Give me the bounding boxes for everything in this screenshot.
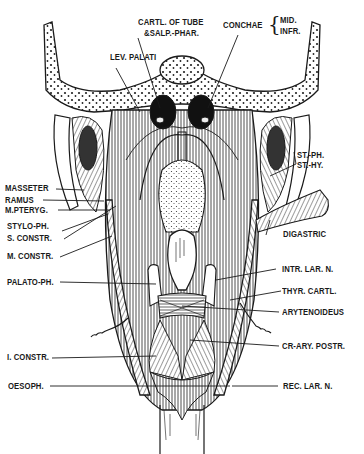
- label-thyr-cartl: THYR. CARTL.: [282, 287, 337, 296]
- label-ramus: RAMUS: [5, 196, 34, 205]
- label-st-hy: ST.-HY.: [297, 161, 323, 170]
- label-palato-ph: PALATO-PH.: [7, 278, 54, 287]
- label-m-constr: M. CONSTR.: [7, 252, 53, 261]
- label-intr-lar-n: INTR. LAR. N.: [282, 265, 333, 274]
- label-m-pteryg: M.PTERYG.: [5, 206, 48, 215]
- label-conchae: CONCHAE: [223, 21, 263, 30]
- label-conchae-mid: MID.: [280, 16, 297, 25]
- conchae-brace: {: [268, 14, 281, 34]
- label-arytenoideus: ARYTENOIDEUS: [282, 308, 344, 317]
- label-oesoph: OESOPH.: [8, 382, 44, 391]
- anatomical-diagram: CARTL. OF TUBE &SALP.-PHAR. LEV. PALATI …: [0, 0, 364, 454]
- label-cr-ary-postr: CR-ARY. POSTR.: [282, 342, 345, 351]
- label-masseter: MASSETER: [5, 184, 49, 193]
- label-salp-phar: &SALP.-PHAR.: [144, 29, 199, 38]
- label-i-constr: I. CONSTR.: [7, 353, 49, 362]
- label-cartl-of-tube: CARTL. OF TUBE: [138, 18, 203, 27]
- label-digastric: DIGASTRIC: [283, 230, 326, 239]
- label-s-constr: S. CONSTR.: [7, 234, 52, 243]
- label-stylo-ph: STYLO-PH.: [7, 222, 49, 231]
- label-st-ph: ST.-PH.: [297, 151, 324, 160]
- label-lev-palati: LEV. PALATI: [110, 53, 156, 62]
- tongue-dorsum: [159, 160, 205, 232]
- label-conchae-infr: INFR.: [280, 27, 301, 36]
- label-rec-lar-n: REC. LAR. N.: [283, 382, 332, 391]
